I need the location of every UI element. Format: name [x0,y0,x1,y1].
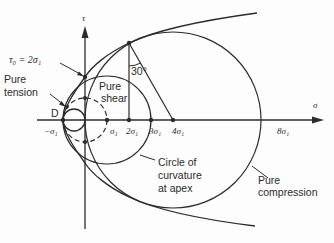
pure-tension-label-line1: Pure [4,73,26,85]
curvature-label-line1: Circle of [158,156,197,168]
pure-shear-label-line2: shear [101,92,128,104]
curvature-leader [140,155,155,160]
angle-label: 30° [131,65,147,77]
tau-axis-label: τ [82,13,86,23]
pure-tension-label-line2: tension [4,86,38,98]
pure-compression-label-line1: Pure [258,174,280,186]
tick-2sigma1: 2σ₁ [126,126,138,136]
curvature-label-line3: at apex [158,182,193,194]
tick-neg-sigma1: −σ₁ [44,126,58,136]
curvature-label-line2: curvature [158,169,202,181]
pure-compression-label-line2: compression [258,186,318,198]
tau-axis-arrow-icon [82,26,89,38]
point-d-label: D [51,107,59,119]
tau0-label: τ₀ = 2σ₁ [9,54,41,65]
tick-3sigma1: 3σ₁ [148,126,161,136]
mohr-failure-envelope-diagram: τ σ −σ₁ σ₁ 2σ₁ 3σ₁ 4σ₁ 8σ₁ τ₀ = 2σ₁ Pure… [0,0,334,243]
normal-line-30deg [129,43,173,120]
tick-sigma1: σ₁ [110,126,118,136]
tick-4sigma1: 4σ₁ [172,126,184,136]
tau0-leader-arrow-icon [77,72,84,77]
tick-8sigma1: 8σ₁ [277,126,289,136]
pure-shear-label-line1: Pure [99,80,121,92]
sigma-axis-label: σ [313,100,318,110]
diagram-canvas: τ σ −σ₁ σ₁ 2σ₁ 3σ₁ 4σ₁ 8σ₁ τ₀ = 2σ₁ Pure… [0,0,334,243]
sigma-axis-arrow-icon [312,117,324,124]
